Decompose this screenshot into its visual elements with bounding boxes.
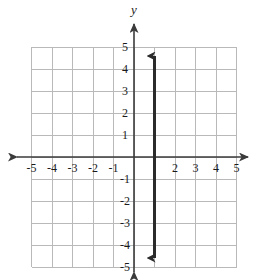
y-tick-label: -1	[120, 172, 130, 186]
x-axis-tick-labels-negative: -5 -4 -3 -2 -1	[27, 161, 119, 175]
x-tick-label: -1	[109, 161, 119, 175]
y-tick-label: 2	[122, 106, 128, 120]
y-tick-label: -5	[120, 260, 130, 274]
y-tick-label: -2	[120, 194, 130, 208]
y-axis-label: y	[129, 2, 137, 17]
y-axis-tick-labels-positive: 5 4 3 2 1	[122, 40, 128, 142]
x-axis-tick-labels-positive: 2 3 4 5	[172, 161, 240, 175]
x-tick-label: -3	[68, 161, 78, 175]
y-tick-label: 5	[122, 40, 128, 54]
graph-canvas: -5 -4 -3 -2 -1 2 3 4 5 5 4 3 2 1 -1 -2 -…	[0, 0, 265, 280]
x-tick-label: 2	[172, 161, 178, 175]
x-tick-label: 3	[193, 161, 199, 175]
y-axis-tick-labels-negative: -1 -2 -3 -4 -5	[120, 172, 130, 274]
y-tick-label: -4	[120, 238, 130, 252]
y-tick-label: 1	[122, 128, 128, 142]
coordinate-plane-figure: -5 -4 -3 -2 -1 2 3 4 5 5 4 3 2 1 -1 -2 -…	[0, 0, 265, 280]
y-tick-label: 4	[122, 62, 128, 76]
x-tick-label: -4	[47, 161, 57, 175]
x-tick-label: -2	[88, 161, 98, 175]
x-tick-label: 4	[213, 161, 219, 175]
y-tick-label: 3	[122, 84, 128, 98]
x-tick-label: 5	[234, 161, 240, 175]
x-tick-label: -5	[27, 161, 37, 175]
y-tick-label: -3	[120, 216, 130, 230]
